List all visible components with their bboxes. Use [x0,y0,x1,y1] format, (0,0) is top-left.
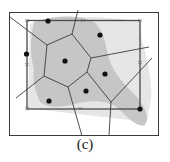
site-point [46,98,51,103]
site-point [97,32,102,37]
site-point [137,106,142,111]
figure-caption: (c) [0,136,170,153]
site-point [102,71,107,76]
site-point [62,58,67,63]
site-point [83,88,88,93]
site-point [45,18,50,23]
site-point [24,51,29,56]
